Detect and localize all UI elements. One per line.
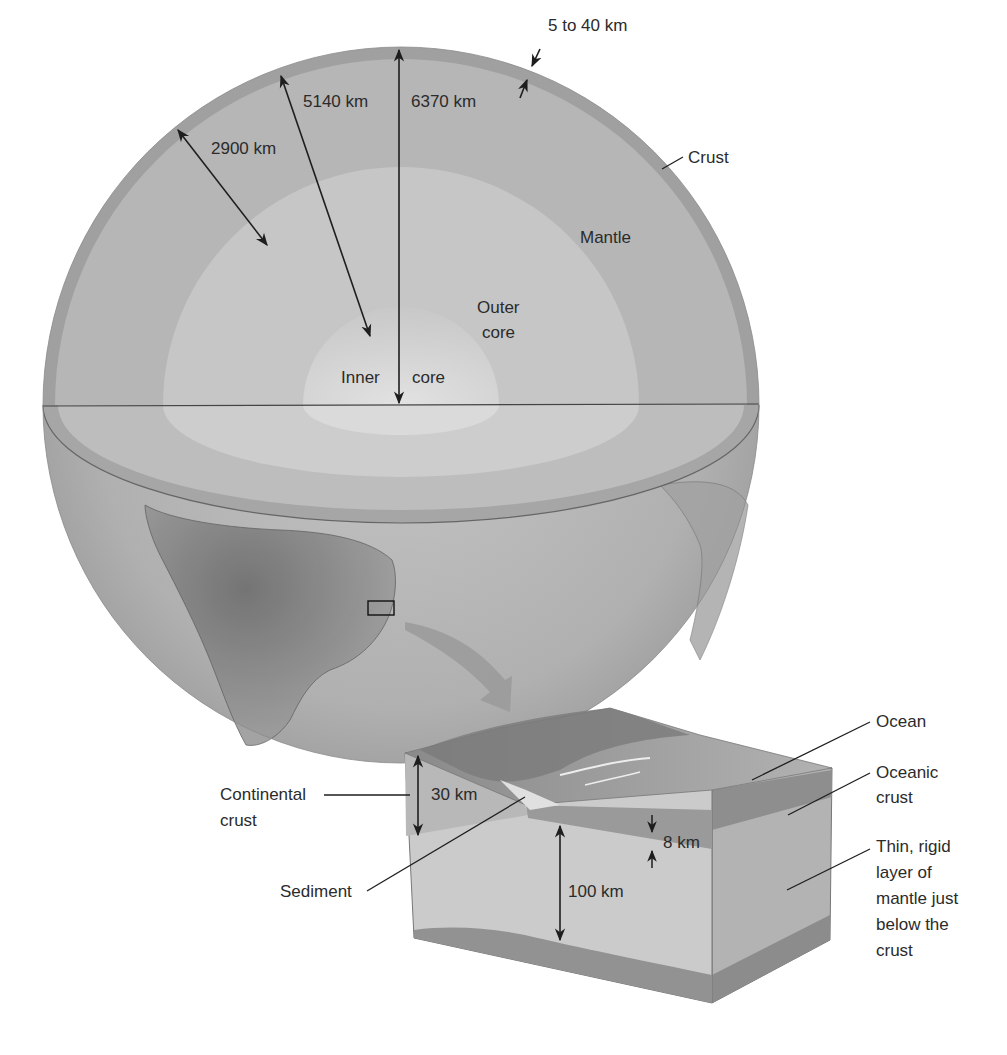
label-oceanic-crust-line2: crust bbox=[876, 787, 913, 809]
label-outer-core-line1: Outer bbox=[477, 297, 520, 319]
lithosphere-block bbox=[405, 708, 832, 1003]
label-inner-core-left: Inner bbox=[341, 367, 380, 389]
label-sediment: Sediment bbox=[280, 881, 352, 903]
label-lithosphere-line4: below the bbox=[876, 914, 949, 936]
label-mantle: Mantle bbox=[580, 227, 631, 249]
label-lithosphere-line3: mantle just bbox=[876, 888, 958, 910]
label-continental-crust-line2: crust bbox=[220, 810, 257, 832]
label-lithosphere-line2: layer of bbox=[876, 862, 932, 884]
label-inner-core-right: core bbox=[412, 367, 445, 389]
label-mantle-depth: 2900 km bbox=[211, 138, 276, 160]
crust-thickness-arrow-top bbox=[532, 49, 540, 66]
globe bbox=[43, 47, 759, 763]
label-lithosphere-line5: crust bbox=[876, 940, 913, 962]
earth-structure-diagram bbox=[0, 0, 1007, 1055]
label-lithosphere-thickness: 100 km bbox=[568, 881, 624, 903]
label-crust: Crust bbox=[688, 147, 729, 169]
label-continental-crust-line1: Continental bbox=[220, 784, 306, 806]
label-crust-thickness: 5 to 40 km bbox=[548, 15, 627, 37]
label-oceanic-crust-thickness: 8 km bbox=[663, 832, 700, 854]
label-oceanic-crust-line1: Oceanic bbox=[876, 762, 938, 784]
label-ocean: Ocean bbox=[876, 711, 926, 733]
label-lithosphere-line1: Thin, rigid bbox=[876, 836, 951, 858]
label-continental-crust-thickness: 30 km bbox=[431, 784, 477, 806]
label-outer-core-line2: core bbox=[482, 322, 515, 344]
label-earth-radius: 6370 km bbox=[411, 91, 476, 113]
label-inner-core-depth: 5140 km bbox=[303, 91, 368, 113]
